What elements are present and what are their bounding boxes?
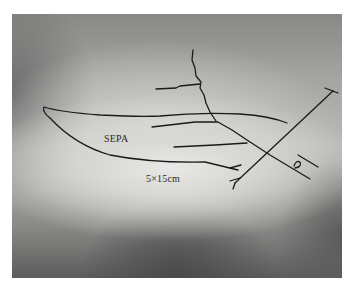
axis-line [235, 91, 333, 183]
axis-tick-1 [230, 165, 241, 168]
flap-size-label: 5×15cm [146, 173, 180, 184]
vessel-middle-2 [174, 143, 247, 147]
flap-name-label: SEPA [104, 133, 128, 144]
right-mark-line [298, 155, 318, 167]
axis-bottom-stub [233, 183, 235, 189]
vessel-vertical [192, 50, 216, 121]
flap-markings [12, 14, 342, 278]
clinical-photo: SEPA 5×15cm [12, 14, 342, 278]
right-mark-loop [294, 162, 300, 169]
vessel-branch [156, 84, 200, 89]
vessel-middle-1 [152, 122, 310, 179]
flap-outline [44, 107, 287, 170]
